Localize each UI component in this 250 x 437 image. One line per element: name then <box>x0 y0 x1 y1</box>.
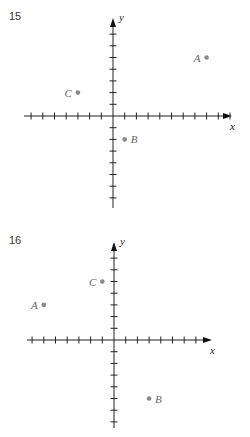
x-axis-arrow-icon <box>203 337 212 343</box>
point-b <box>147 396 152 401</box>
x-axis-label: x <box>209 344 215 356</box>
point-a <box>42 303 47 308</box>
y-axis-arrow-icon <box>111 242 117 251</box>
point-label-c: C <box>89 276 97 288</box>
point-label-a: A <box>30 299 38 311</box>
y-axis-label: y <box>119 235 125 247</box>
point-label-b: B <box>155 393 162 405</box>
point-c <box>100 279 105 284</box>
coordinate-plane-16: xyABC <box>0 0 250 437</box>
